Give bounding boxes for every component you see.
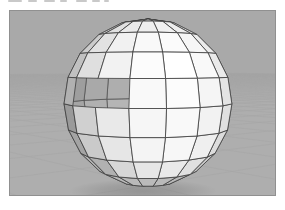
- sphere-face: [133, 32, 163, 52]
- sphere-face: [130, 138, 165, 162]
- sphere-face: [197, 78, 223, 108]
- sphere-face: [165, 108, 200, 138]
- cropped-text-artifact-dash: [76, 0, 87, 2]
- sphere-face: [95, 108, 130, 138]
- sphere-face: [129, 109, 167, 138]
- cropped-text-artifact-dash: [104, 0, 109, 2]
- cropped-text-artifact-dash: [44, 0, 55, 2]
- sphere-interior-face: [84, 76, 109, 100]
- figure-3d-sphere-render: [0, 0, 285, 210]
- render-viewport: [9, 10, 276, 196]
- sphere-face: [73, 106, 99, 136]
- sphere-face: [197, 106, 223, 136]
- cropped-text-artifact-dash: [28, 0, 37, 2]
- sphere-face: [166, 78, 201, 108]
- sphere-face: [133, 162, 162, 179]
- cropped-text-artifact-dash: [60, 0, 67, 2]
- cropped-text-artifact-dash: [92, 0, 100, 2]
- viewport-svg: [10, 11, 275, 195]
- cropped-text-artifact-dash: [8, 0, 22, 2]
- sphere-face: [129, 79, 167, 109]
- sphere-face: [130, 52, 166, 79]
